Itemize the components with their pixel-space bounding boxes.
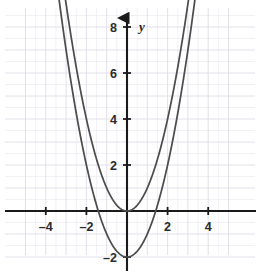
x-tick-label: 4 — [205, 220, 212, 234]
x-tick-label: 2 — [164, 220, 171, 234]
parabola-graph: –4–224–22468 y — [0, 0, 261, 277]
x-tick-label: –2 — [79, 220, 93, 234]
y-tick-label: 2 — [110, 159, 117, 173]
x-tick-label: –4 — [39, 220, 53, 234]
y-axis-label: y — [137, 19, 145, 34]
y-tick-label: 4 — [110, 113, 117, 127]
coordinate-plane: –4–224–22468 y — [0, 0, 261, 277]
y-tick-label: 8 — [110, 21, 117, 35]
y-tick-label: –2 — [103, 251, 117, 265]
chart-background — [0, 0, 261, 277]
y-tick-label: 6 — [110, 67, 117, 81]
